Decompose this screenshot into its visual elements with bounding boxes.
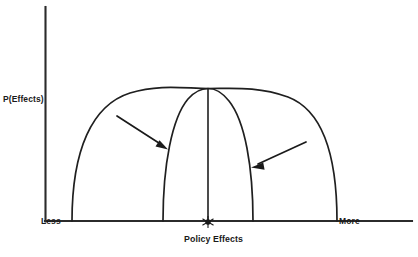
x-axis-title: Policy Effects — [184, 234, 243, 244]
right-pointer-arrow — [251, 142, 306, 170]
x-axis-tick-label-more: More — [339, 216, 360, 226]
policy-effects-distribution-figure: P(Effects) Less More Policy Effects — [0, 0, 418, 257]
x-axis-tick-label-less: Less — [41, 216, 61, 226]
y-axis-label: P(Effects) — [3, 94, 44, 104]
left-pointer-arrow — [117, 116, 168, 150]
wide-distribution-curve — [72, 87, 337, 221]
